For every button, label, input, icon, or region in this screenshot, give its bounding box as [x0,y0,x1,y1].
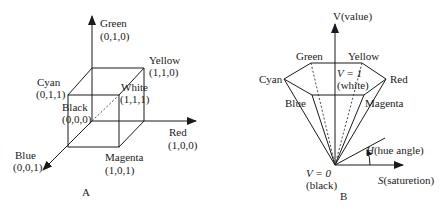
label-magenta-coords: (1,0,1) [105,164,135,177]
label-blue: Blue [15,149,36,161]
label-hsv-red: Red [390,73,408,85]
label-hsv-blue: Blue [285,97,306,109]
label-green-coords: (0,1,0) [100,30,130,43]
label-saturation: S(saturetion) [378,174,435,187]
label-cyan: Cyan [37,76,61,88]
figure-a-caption: A [82,186,90,198]
label-green: Green [100,17,127,29]
gray-diagonal [92,95,119,121]
rgb-cube-diagram: Green (0,1,0) Yellow (1,1,0) Cyan (0,1,1… [13,16,198,198]
label-v-equals-1: V = 1 [337,67,362,79]
label-white-sub: (white) [337,79,369,92]
label-white: White [121,81,148,93]
label-white-coords: (1,1,1) [120,93,150,106]
label-red-coords: (1,0,0) [168,139,198,152]
label-cyan-coords: (0,1,1) [36,88,66,101]
hidden-edge-green [311,63,335,165]
label-blue-coords: (0,0,1) [13,161,43,174]
label-value-axis: V(value) [333,10,372,23]
hsv-hexcone-diagram: V(value) Green Yellow Cyan Red Blue Mage… [259,10,435,202]
label-yellow-coords: (1,1,0) [149,66,179,79]
label-hsv-cyan: Cyan [259,73,283,85]
label-v-equals-0: V = 0 [306,167,331,179]
color-models-figure: Green (0,1,0) Yellow (1,1,0) Cyan (0,1,1… [0,0,445,209]
label-hsv-magenta: Magenta [365,97,404,109]
label-hsv-yellow: Yellow [348,50,379,62]
label-yellow: Yellow [149,54,180,66]
label-black: Black [62,101,88,113]
label-black-coords: (0,0,0) [62,113,92,126]
label-magenta: Magenta [105,151,144,163]
label-red: Red [169,126,187,138]
label-hsv-green: Green [296,50,323,62]
label-black-sub: (black) [306,179,337,192]
label-hue-angle: H(hue angle) [365,144,424,157]
figure-b-caption: B [340,190,347,202]
